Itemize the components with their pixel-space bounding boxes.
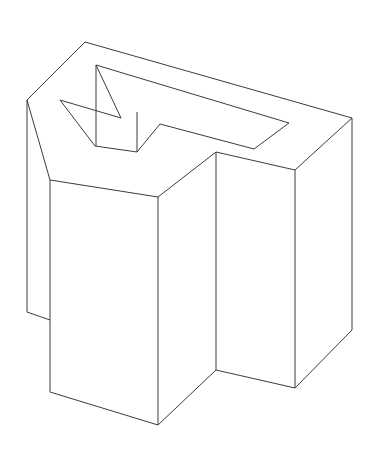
face-front-left-column-left <box>50 180 158 425</box>
drawing-canvas <box>0 0 377 450</box>
face-right-column-front <box>216 152 295 388</box>
isometric-block-figure <box>0 0 377 450</box>
